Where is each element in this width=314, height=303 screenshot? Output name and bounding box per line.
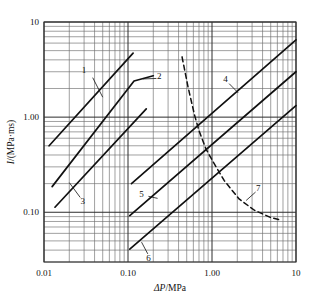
x-axis-tick-labels: 0.010.101.0010 [36,268,301,278]
curve-label-2: 2 [157,71,162,81]
leader-line-7 [246,192,255,200]
y-axis-tick-labels: 0.101.0010 [23,17,39,217]
curve-label-7: 7 [256,183,261,193]
curve-5 [130,72,296,216]
curve-6 [130,106,296,249]
curve-7 [182,57,282,221]
x-tick-label: 0.10 [120,268,136,278]
chart-figure: 1234567 0.010.101.0010 0.101.0010 ΔP/MPa… [0,0,314,303]
log-log-chart: 1234567 0.010.101.0010 0.101.0010 ΔP/MPa… [0,0,314,303]
curve-label-5: 5 [139,189,144,199]
x-axis-title: ΔP/MPa [153,283,187,293]
x-tick-label: 10 [292,268,302,278]
grid-minor [44,22,296,262]
plot-frame [44,22,296,262]
x-tick-label: 1.00 [204,268,220,278]
x-tick-label: 0.01 [36,268,52,278]
y-tick-label: 1.00 [23,112,39,122]
grid-major [44,22,296,262]
curve-label-1: 1 [82,65,87,75]
curve-label-4: 4 [223,74,228,84]
curve-label-6: 6 [146,253,151,263]
y-tick-label: 0.10 [23,207,39,217]
curve-label-3: 3 [81,196,86,206]
y-tick-label: 10 [30,17,40,27]
y-axis-title: I/(MPa·ms) [6,120,17,165]
